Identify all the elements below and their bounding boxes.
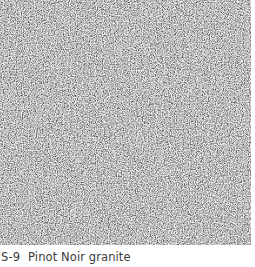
granite-swatch-image [0, 0, 251, 245]
swatch-caption: S-9Pinot Noir granite [1, 250, 131, 264]
granite-texture [0, 0, 251, 245]
sample-code: S-9 [1, 250, 20, 264]
sample-name: Pinot Noir granite [28, 250, 131, 264]
